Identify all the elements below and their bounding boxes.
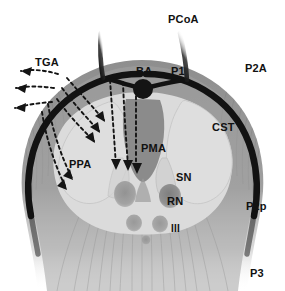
anatomy-svg: [0, 0, 285, 291]
red-nucleus-left: [114, 181, 136, 207]
red-nucleus-right: [159, 184, 181, 208]
oculomotor-nucleus-right: [152, 216, 168, 233]
midline-nucleus: [142, 236, 151, 245]
oculomotor-nucleus-left: [126, 215, 142, 232]
midbrain-anatomy-figure: PCoA TGA BA P1 P2A CST PMA PPA SN RN III…: [0, 0, 285, 291]
